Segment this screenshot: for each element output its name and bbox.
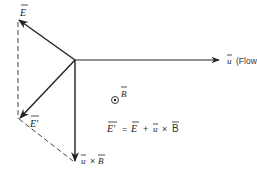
label-e-prime: E' bbox=[29, 116, 39, 129]
dashed-line-eprime-to-uxb bbox=[19, 119, 73, 161]
equation-term2-b: B bbox=[172, 123, 179, 134]
label-u-caption: (Flow velocity) bbox=[236, 56, 257, 66]
label-b-text: B bbox=[121, 89, 127, 99]
label-u-text: u bbox=[227, 56, 232, 66]
label-u-cross-b: u × B bbox=[81, 155, 105, 166]
vector-e-prime bbox=[20, 60, 75, 118]
equation-plus: + bbox=[143, 124, 148, 134]
equation-term2-u: u bbox=[153, 124, 158, 134]
equation-cross: × bbox=[162, 124, 167, 134]
vector-diagram: E E' u × B u (Flow velocity) B E' = E + … bbox=[0, 0, 257, 178]
equation: E' = E + u × B bbox=[106, 122, 179, 134]
label-e-prime-text: E' bbox=[29, 118, 39, 129]
equation-equals: = bbox=[122, 124, 127, 134]
label-e-text: E bbox=[19, 7, 26, 18]
label-uxb-b: B bbox=[98, 156, 104, 166]
label-uxb-cross: × bbox=[90, 156, 95, 166]
magnetic-field-out-of-page-icon: B bbox=[112, 87, 128, 104]
equation-lhs: E' bbox=[106, 123, 116, 134]
label-u: u (Flow velocity) bbox=[227, 55, 257, 66]
label-e: E bbox=[19, 5, 28, 18]
vector-e bbox=[19, 20, 75, 60]
label-uxb-u: u bbox=[81, 156, 86, 166]
equation-term1: E bbox=[130, 123, 137, 134]
